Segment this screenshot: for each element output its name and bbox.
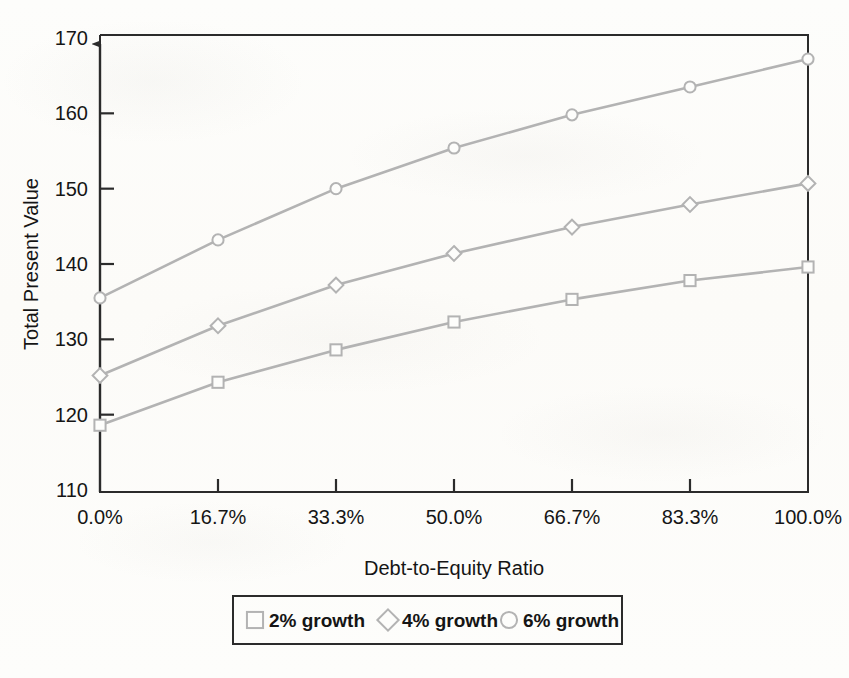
data-point-square xyxy=(684,275,695,286)
data-point-circle xyxy=(448,142,459,153)
data-point-square xyxy=(330,344,341,355)
x-tick-label: 0.0% xyxy=(77,506,123,528)
legend-marker-diamond xyxy=(377,609,398,630)
y-tick-label: 110 xyxy=(56,479,88,501)
data-point-diamond xyxy=(93,368,108,383)
data-point-circle xyxy=(684,81,695,92)
x-tick-label: 50.0% xyxy=(426,506,483,528)
data-point-circle xyxy=(94,292,105,303)
data-point-diamond xyxy=(211,318,226,333)
legend-label[interactable]: 2% growth xyxy=(269,610,365,631)
data-point-circle xyxy=(566,109,577,120)
x-tick-label: 33.3% xyxy=(308,506,365,528)
x-tick-label: 66.7% xyxy=(544,506,601,528)
legend: 2% growth4% growth6% growth xyxy=(233,596,622,644)
data-point-square xyxy=(802,261,813,272)
data-point-square xyxy=(94,420,105,431)
y-tick-label: 150 xyxy=(55,178,88,200)
legend-marker-circle xyxy=(501,612,517,628)
x-tick-label: 83.3% xyxy=(662,506,719,528)
data-point-diamond xyxy=(683,197,698,212)
data-point-square xyxy=(566,294,577,305)
legend-label[interactable]: 4% growth xyxy=(402,610,498,631)
data-point-square xyxy=(448,316,459,327)
legend-label[interactable]: 6% growth xyxy=(523,610,619,631)
y-tick-label: 140 xyxy=(55,253,88,275)
data-point-circle xyxy=(802,54,813,65)
x-axis-ticks xyxy=(218,479,690,492)
data-point-circle xyxy=(212,234,223,245)
line-chart: 110120130140150160170 0.0%16.7%33.3%50.0… xyxy=(0,0,849,678)
x-tick-label: 16.7% xyxy=(190,506,247,528)
data-point-diamond xyxy=(447,246,462,261)
data-point-square xyxy=(212,377,223,388)
legend-marker-square xyxy=(247,612,263,628)
plot-frame xyxy=(100,35,808,492)
data-point-diamond xyxy=(565,220,580,235)
x-axis-title: Debt-to-Equity Ratio xyxy=(364,557,544,579)
y-axis-tick-labels: 110120130140150160170 xyxy=(55,27,88,501)
y-tick-label: 160 xyxy=(55,102,88,124)
series-line xyxy=(100,267,808,425)
data-point-circle xyxy=(330,183,341,194)
y-tick-label: 170 xyxy=(55,27,88,49)
data-point-diamond xyxy=(801,176,816,191)
x-axis-tick-labels: 0.0%16.7%33.3%50.0%66.7%83.3%100.0% xyxy=(77,506,842,528)
series-square xyxy=(94,261,813,430)
chart-page: 110120130140150160170 0.0%16.7%33.3%50.0… xyxy=(0,0,849,678)
series-circle xyxy=(94,54,813,304)
x-tick-label: 100.0% xyxy=(774,506,842,528)
data-series-layer xyxy=(93,54,816,431)
y-tick-label: 120 xyxy=(55,404,88,426)
y-tick-label: 130 xyxy=(55,328,88,350)
y-axis-title: Total Present Value xyxy=(20,178,42,350)
data-point-diamond xyxy=(329,278,344,293)
